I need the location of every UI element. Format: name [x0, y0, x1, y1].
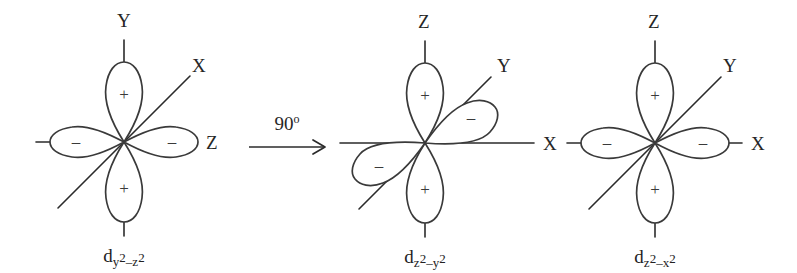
sign-left-3: – — [602, 133, 612, 152]
sign-bottom-1: + — [119, 179, 129, 198]
sign-top-2: + — [420, 86, 430, 105]
orbital-diagram-2: + + – – Z X Y dz2–y2 — [340, 11, 557, 270]
sign-diagonal-upper-2: – — [466, 108, 476, 127]
orbital-label-1: dy2–z2 — [103, 245, 144, 269]
orbital-diagram-3: + + – – Z X Y dz2–x2 — [567, 11, 765, 270]
axis-label-horizontal-3: X — [751, 133, 765, 154]
sign-diagonal-lower-2: – — [374, 156, 384, 175]
rotation-transition: 90o — [249, 112, 325, 154]
axis-label-horizontal-2: X — [543, 133, 557, 154]
orbital-label-1-prefix: d — [103, 245, 113, 266]
rotation-angle-label: 90o — [275, 112, 300, 134]
axis-label-vertical-3: Z — [648, 11, 660, 32]
degree-symbol: o — [294, 112, 300, 126]
sign-top-3: + — [650, 86, 660, 105]
axis-label-diagonal-2: Y — [497, 55, 511, 76]
orbital-label-1-sup2: 2 — [138, 250, 145, 265]
rotation-angle-value: 90 — [275, 113, 294, 134]
axis-label-diagonal-3: Y — [723, 55, 737, 76]
sign-top-1: + — [119, 85, 129, 104]
orbital-label-3-prefix: d — [634, 246, 644, 267]
orbital-diagram-1: + + – – Y Z X dy2–z2 — [36, 10, 218, 269]
sign-right-1: – — [167, 132, 177, 151]
sign-left-1: – — [71, 132, 81, 151]
orbital-label-3-sup2: 2 — [669, 251, 676, 266]
orbital-label-3: dz2–x2 — [634, 246, 675, 270]
orbital-label-2: dz2–y2 — [404, 246, 445, 270]
axis-label-vertical-2: Z — [418, 11, 430, 32]
orbital-label-2-sup2: 2 — [439, 251, 446, 266]
orbital-figure: + + – – Y Z X dy2–z2 90o + + — [0, 0, 797, 273]
axis-label-diagonal-1: X — [192, 55, 206, 76]
sign-bottom-3: + — [650, 180, 660, 199]
axis-label-vertical-1: Y — [117, 10, 131, 31]
sign-bottom-2: + — [420, 180, 430, 199]
sign-right-3: – — [698, 133, 708, 152]
orbital-label-2-prefix: d — [404, 246, 414, 267]
axis-label-horizontal-1: Z — [206, 132, 218, 153]
